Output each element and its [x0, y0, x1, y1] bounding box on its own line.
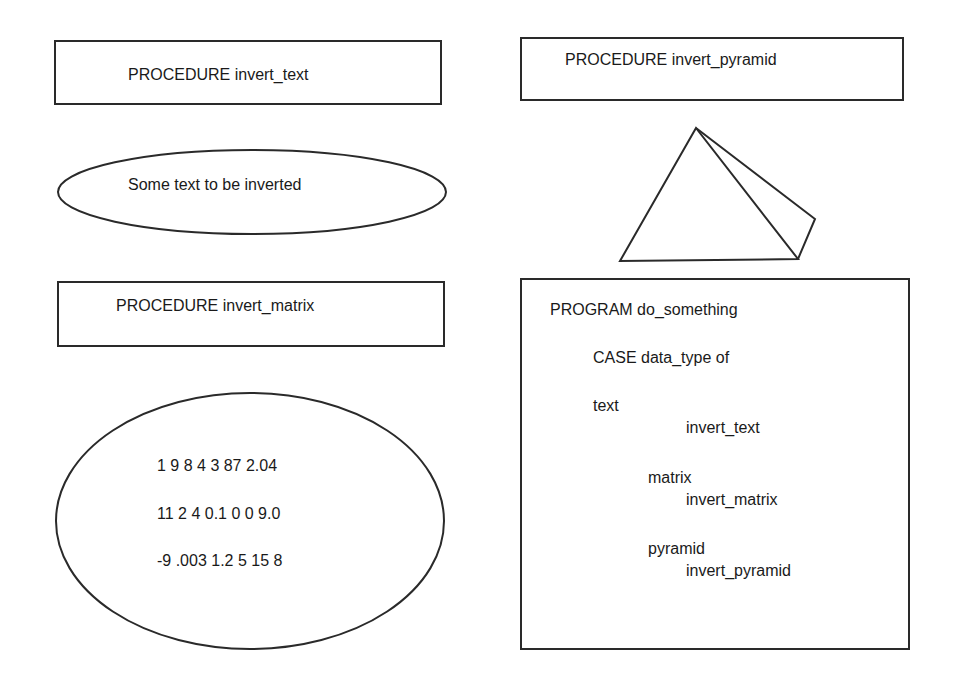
- case-type-text: text: [593, 398, 619, 414]
- matrix-row: 11 2 4 0.1 0 0 9.0: [157, 506, 280, 522]
- procedure-invert-matrix-box: [57, 281, 445, 347]
- text-data-label: Some text to be inverted: [128, 177, 301, 193]
- case-type-pyramid: pyramid: [648, 541, 705, 557]
- case-call-invert-text: invert_text: [686, 420, 760, 436]
- case-call-invert-matrix: invert_matrix: [686, 492, 778, 508]
- matrix-row: 1 9 8 4 3 87 2.04: [157, 458, 277, 474]
- case-type-matrix: matrix: [648, 470, 692, 486]
- case-call-invert-pyramid: invert_pyramid: [686, 563, 791, 579]
- matrix-row: -9 .003 1.2 5 15 8: [157, 553, 282, 569]
- procedure-invert-pyramid-box: [520, 37, 904, 101]
- program-case-line: CASE data_type of: [593, 350, 729, 366]
- procedure-invert-text-label: PROCEDURE invert_text: [128, 67, 309, 83]
- pyramid-shape: [620, 128, 815, 261]
- program-title: PROGRAM do_something: [550, 302, 738, 318]
- procedure-invert-pyramid-label: PROCEDURE invert_pyramid: [565, 52, 777, 68]
- program-box: [520, 278, 910, 650]
- procedure-invert-matrix-label: PROCEDURE invert_matrix: [116, 298, 314, 314]
